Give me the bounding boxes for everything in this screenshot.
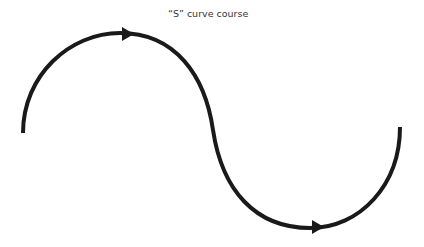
arrowhead-bottom-icon xyxy=(312,220,324,234)
s-curve-diagram xyxy=(0,0,424,247)
arrowhead-top-icon xyxy=(122,27,134,41)
s-curve-path xyxy=(23,33,400,228)
